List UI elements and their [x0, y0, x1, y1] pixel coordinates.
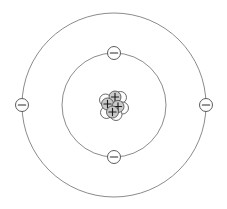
atom-canvas — [0, 0, 227, 209]
proton-4 — [107, 106, 119, 118]
electron-outer-left — [16, 99, 29, 112]
electron-outer-right — [200, 99, 213, 112]
bohr-atom-diagram — [0, 0, 227, 209]
nucleus — [100, 91, 129, 121]
electron-inner-top — [108, 47, 121, 60]
electron-inner-bottom — [108, 151, 121, 164]
